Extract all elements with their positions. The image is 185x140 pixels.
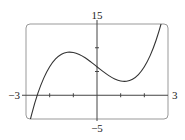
x-max-label: 3 (172, 89, 178, 101)
function-plot: 15 −5 −3 3 (0, 0, 185, 140)
x-min-label: −3 (8, 89, 20, 101)
y-min-label: −5 (91, 122, 103, 134)
y-max-label: 15 (92, 9, 104, 21)
